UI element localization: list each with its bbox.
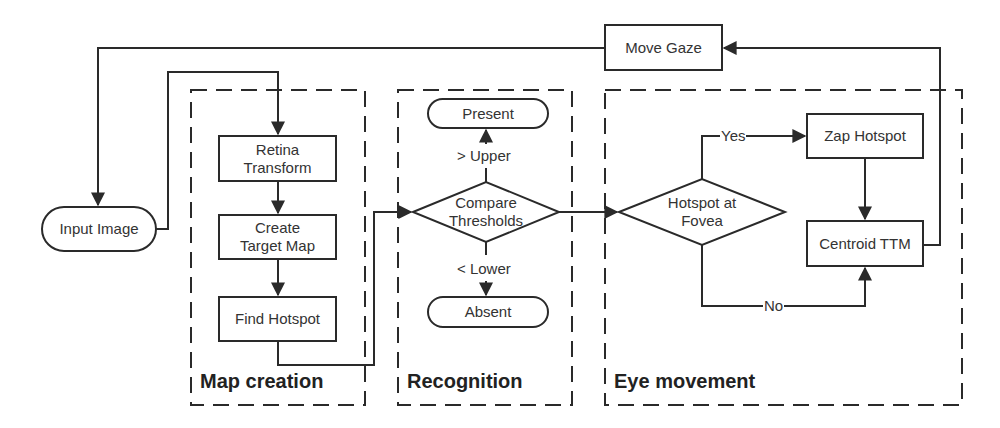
retina-transform-label: Retina Transform — [219, 136, 336, 181]
compare-thresholds-line2: Thresholds — [449, 212, 523, 230]
centroid-ttm-label: Centroid TTM — [807, 221, 923, 266]
edge-label-no: No — [763, 298, 784, 314]
group-title-recognition: Recognition — [407, 370, 523, 393]
input-image-label: Input Image — [42, 207, 156, 251]
hotspot-at-fovea-label: Hotspot at Fovea — [642, 192, 762, 232]
absent-label: Absent — [428, 297, 548, 327]
group-title-map-creation: Map creation — [200, 370, 323, 393]
compare-thresholds-line1: Compare — [455, 194, 517, 212]
retina-transform-line2: Transform — [244, 159, 312, 177]
edge-label-yes: Yes — [720, 128, 746, 144]
edge-label-lower: < Lower — [456, 261, 512, 277]
compare-thresholds-label: Compare Thresholds — [426, 192, 546, 232]
create-target-map-label: Create Target Map — [219, 215, 336, 259]
edge-yes — [702, 136, 805, 179]
hotspot-at-fovea-line1: Hotspot at — [668, 194, 736, 212]
present-label: Present — [428, 99, 548, 128]
group-title-eye-movement: Eye movement — [614, 370, 755, 393]
hotspot-at-fovea-line2: Fovea — [681, 212, 723, 230]
create-target-map-line2: Target Map — [240, 237, 315, 255]
edge-label-upper: > Upper — [456, 148, 512, 164]
create-target-map-line1: Create — [255, 219, 300, 237]
retina-transform-line1: Retina — [256, 141, 299, 159]
zap-hotspot-label: Zap Hotspot — [807, 114, 923, 158]
move-gaze-label: Move Gaze — [605, 25, 722, 70]
find-hotspot-label: Find Hotspot — [219, 297, 336, 341]
